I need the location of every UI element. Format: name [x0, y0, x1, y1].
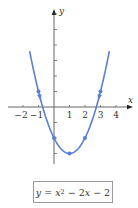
- x-tick-label: −2: [14, 110, 27, 120]
- x-tick-label: 3: [98, 110, 104, 120]
- right-branch-arrow-icon: [98, 94, 102, 101]
- equation-constant: − 2: [90, 187, 110, 198]
- parabola-plot: −2−11234xy: [0, 0, 138, 178]
- data-point: [68, 152, 72, 156]
- x-tick-label: −1: [30, 110, 43, 120]
- data-point: [52, 136, 56, 140]
- y-axis-label: y: [58, 6, 65, 16]
- equation-equals: =: [41, 187, 55, 198]
- x-axis-label: x: [128, 95, 133, 105]
- equation-term: − 2: [65, 187, 85, 198]
- data-point: [99, 90, 103, 94]
- data-point: [83, 136, 87, 140]
- x-axis-arrow-icon: [127, 105, 133, 110]
- left-branch-arrow-icon: [37, 94, 41, 101]
- x-tick-label: 1: [67, 110, 73, 120]
- x-tick-label: 2: [82, 110, 88, 120]
- data-point: [37, 90, 41, 94]
- equation-box: y = x2 − 2x − 2: [33, 181, 113, 203]
- parabola-curve: [30, 51, 110, 153]
- x-tick-label: 4: [113, 110, 119, 120]
